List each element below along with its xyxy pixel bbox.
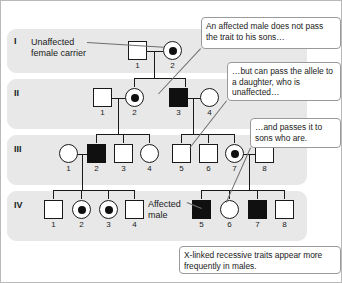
individual-number-i-1: 1 — [128, 62, 147, 70]
callout-grandsons: …and passes it to sons who are. — [250, 118, 341, 148]
individual-number-iii-2: 2 — [87, 165, 106, 173]
individual-number-iv-8: 8 — [275, 221, 294, 229]
individual-ii-4 — [200, 88, 219, 107]
sibship-bar-iv-right — [201, 190, 284, 191]
individual-number-iii-6: 6 — [199, 165, 218, 173]
descent-line-iii7-iii8 — [249, 154, 250, 191]
individual-iii-6 — [199, 144, 218, 163]
individual-ii-1 — [93, 88, 112, 107]
carrier-dot-i-2 — [169, 47, 177, 55]
individual-number-iv-2: 2 — [72, 221, 91, 229]
callout-sons: An affected male does not pass the trait… — [201, 17, 341, 49]
individual-number-iv-6: 6 — [220, 221, 239, 229]
individual-iii-4 — [140, 144, 159, 163]
sib-drop-iii-5 — [181, 134, 182, 143]
individual-iv-1 — [44, 200, 63, 219]
individual-ii-2 — [125, 88, 144, 107]
individual-number-ii-2: 2 — [125, 109, 144, 117]
callout-frequency: X-linked recessive traits appear more fr… — [179, 246, 341, 274]
individual-number-iii-8: 8 — [255, 165, 274, 173]
sib-drop-iii-4 — [149, 134, 150, 143]
sibship-bar-gen-ii — [134, 78, 186, 79]
individual-iv-3 — [99, 200, 118, 219]
individual-iii-2 — [87, 144, 106, 163]
sib-drop-iv-1 — [53, 190, 54, 199]
generation-label-i: I — [14, 37, 17, 46]
sib-drop-iii-6 — [208, 134, 209, 143]
sib-drop-iv-3 — [108, 190, 109, 199]
individual-number-iii-4: 4 — [140, 165, 159, 173]
individual-number-iv-5: 5 — [192, 221, 211, 229]
individual-number-iv-3: 3 — [99, 221, 118, 229]
individual-number-iv-4: 4 — [125, 221, 144, 229]
sib-drop-iv-4 — [134, 190, 135, 199]
descent-line-ii1-ii2 — [118, 98, 119, 135]
descent-line-iii1-iii2 — [82, 154, 83, 191]
individual-number-iv-1: 1 — [44, 221, 63, 229]
carrier-dot-iii-7 — [231, 150, 239, 158]
sib-drop-iii-2 — [96, 134, 97, 143]
sib-drop-iii-7 — [234, 134, 235, 143]
sib-drop-iv-5 — [201, 190, 202, 199]
generation-label-ii: II — [14, 89, 19, 98]
individual-number-iii-3: 3 — [114, 165, 133, 173]
sib-drop-iv-8 — [284, 190, 285, 199]
individual-number-i-2: 2 — [163, 62, 182, 70]
individual-ii-3 — [169, 88, 188, 107]
individual-number-ii-1: 1 — [93, 109, 112, 117]
individual-number-iv-7: 7 — [248, 221, 267, 229]
carrier-dot-ii-2 — [131, 94, 139, 102]
descent-line-gen-i — [154, 51, 155, 79]
label-affected-male-line1: Affected — [148, 199, 181, 209]
individual-number-iii-5: 5 — [172, 165, 191, 173]
label-affected-male: Affected male — [148, 199, 208, 221]
generation-label-iii: III — [14, 145, 22, 154]
sib-drop-ii-3 — [185, 78, 186, 87]
label-unaffected-female-carrier: Unaffected female carrier — [31, 37, 109, 59]
label-unaffected-female-carrier-line2: female carrier — [31, 48, 86, 58]
sib-drop-iii-3 — [123, 134, 124, 143]
sib-drop-ii-2 — [134, 78, 135, 87]
individual-iii-7 — [225, 144, 244, 163]
individual-i-2 — [163, 41, 182, 60]
individual-number-iii-1: 1 — [59, 165, 78, 173]
individual-iv-7 — [248, 200, 267, 219]
carrier-dot-iv-3 — [105, 206, 113, 214]
carrier-dot-iv-2 — [78, 206, 86, 214]
individual-iv-4 — [125, 200, 144, 219]
individual-iv-8 — [275, 200, 294, 219]
individual-iii-3 — [114, 144, 133, 163]
label-unaffected-female-carrier-line1: Unaffected — [31, 37, 74, 47]
individual-iii-1 — [59, 144, 78, 163]
pedigree-figure: I II III IV 1 2 1 2 — [0, 0, 342, 283]
descent-line-ii3-ii4 — [193, 98, 194, 135]
generation-label-iv: IV — [14, 201, 23, 210]
individual-iv-2 — [72, 200, 91, 219]
sib-drop-iv-7 — [257, 190, 258, 199]
callout-daughter: …but can pass the allele to a daughter, … — [227, 62, 341, 101]
individual-number-ii-3: 3 — [169, 109, 188, 117]
sibship-bar-iv-left — [53, 190, 134, 191]
sib-drop-iv-2 — [81, 190, 82, 199]
individual-iv-6 — [220, 200, 239, 219]
label-affected-male-line2: male — [148, 210, 168, 220]
